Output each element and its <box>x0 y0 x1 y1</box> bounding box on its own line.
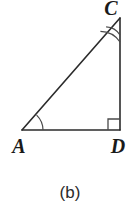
angle-mark-d-right-angle-square <box>108 119 120 130</box>
hypotenuse-ac <box>22 18 120 130</box>
triangle-diagram: C A D (b) <box>0 0 140 220</box>
vertex-label-c: C <box>104 0 118 19</box>
figure-caption: (b) <box>60 183 81 202</box>
angle-mark-a-single-arc <box>37 115 43 130</box>
vertex-label-a: A <box>10 135 25 157</box>
vertex-label-d: D <box>110 135 125 157</box>
triangle-outline <box>22 18 120 130</box>
figure-container: C A D (b) <box>0 0 140 220</box>
